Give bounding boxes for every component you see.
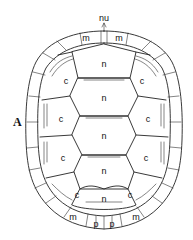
nuchal-arrow-icon <box>102 23 106 31</box>
costal-label: c <box>75 190 80 200</box>
neural-label: n <box>101 59 106 69</box>
marginal-label: m <box>132 212 140 222</box>
nuchal-annotation: nu <box>99 13 109 23</box>
costal-label: c <box>146 114 151 124</box>
costal-label: c <box>128 190 133 200</box>
neural-label: n <box>101 93 106 103</box>
neural-label: n <box>101 166 106 176</box>
costal-label: c <box>144 153 149 163</box>
marginal-label: m <box>69 212 77 222</box>
pygal-label: p <box>93 219 98 229</box>
neural-label: n <box>101 194 106 204</box>
pygal-label: p <box>109 219 114 229</box>
costal-label: c <box>140 76 145 86</box>
panel-label: A <box>13 115 22 129</box>
costal-label: c <box>64 76 69 86</box>
carapace-diagram: A nu <box>0 0 193 240</box>
neural-label: n <box>101 131 106 141</box>
costal-label: c <box>61 153 66 163</box>
marginal-label: m <box>82 33 90 43</box>
marginal-label: m <box>115 33 123 43</box>
nuchal-scute <box>101 31 107 43</box>
costal-label: c <box>59 114 64 124</box>
